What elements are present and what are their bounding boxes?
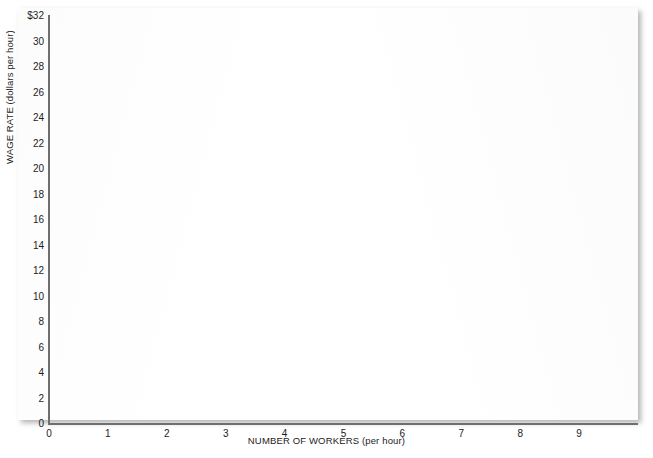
- y-axis-line: [48, 15, 50, 425]
- y-tick-label: 4: [2, 368, 44, 378]
- x-axis-title: NUMBER OF WORKERS (per hour): [0, 435, 653, 446]
- y-tick-label: 18: [2, 190, 44, 200]
- y-tick-label: 8: [2, 317, 44, 327]
- y-tick-label: 20: [2, 164, 44, 174]
- y-axis-title: WAGE RATE (dollars per hour): [4, 150, 15, 164]
- wage-rate-vs-workers-chart: $32302826242220181614121086420 012345678…: [0, 0, 653, 458]
- y-tick-label: 12: [2, 266, 44, 276]
- x-axis-line: [48, 423, 638, 425]
- y-tick-label: 2: [2, 394, 44, 404]
- y-tick-label: 16: [2, 215, 44, 225]
- plot-area[interactable]: [50, 15, 638, 423]
- y-tick-label: 14: [2, 241, 44, 251]
- y-tick-label: 6: [2, 343, 44, 353]
- y-tick-label: 10: [2, 292, 44, 302]
- y-tick-label: $32: [2, 11, 44, 21]
